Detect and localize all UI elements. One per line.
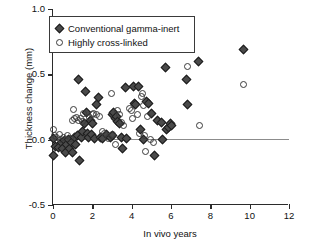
x-axis-tick-label: 4 [122, 210, 142, 221]
data-point [160, 63, 170, 73]
x-axis-tick: 10 [250, 204, 251, 209]
x-axis-tick-label: 6 [161, 210, 181, 221]
x-axis-tick-label: 0 [43, 210, 63, 221]
data-point [194, 56, 204, 66]
data-point [144, 113, 151, 120]
data-point [150, 139, 157, 146]
data-point [120, 122, 127, 129]
data-point [79, 118, 86, 125]
data-point [182, 75, 192, 85]
legend-item-highly-cross-linked: Highly cross-linked [56, 35, 194, 49]
data-point [75, 156, 85, 166]
x-axis-tick-label: 10 [240, 210, 260, 221]
data-point [134, 111, 141, 118]
data-point [108, 90, 115, 97]
data-point [183, 99, 193, 109]
x-axis-tick: 6 [171, 204, 172, 209]
filled-diamond-icon [55, 23, 65, 33]
data-point [240, 81, 247, 88]
y-axis-tick-label: 0.5 [32, 68, 45, 79]
y-axis-tick-label: 1.0 [32, 3, 45, 14]
y-axis-tick: 1.0 [48, 9, 53, 10]
data-point [116, 111, 123, 118]
legend-label: Highly cross-linked [68, 37, 148, 48]
y-axis-tick: 0.5 [48, 74, 53, 75]
data-point [118, 144, 128, 154]
data-point [184, 63, 191, 70]
x-axis-tick-label: 8 [200, 210, 220, 221]
x-axis-tick: 8 [210, 204, 211, 209]
data-point [96, 113, 103, 120]
data-point [80, 86, 90, 96]
data-point [157, 135, 167, 145]
data-point [142, 148, 149, 155]
x-axis-title: In vivo years [52, 228, 288, 239]
data-point [149, 150, 159, 160]
data-point [196, 122, 203, 129]
data-point [70, 106, 77, 113]
x-axis-tick: 0 [53, 204, 54, 209]
data-point [122, 133, 132, 143]
chart-legend: Conventional gamma-inert Highly cross-li… [49, 16, 195, 53]
x-axis-tick: 4 [132, 204, 133, 209]
x-axis-tick: 12 [289, 204, 290, 209]
data-point [74, 75, 84, 85]
y-axis-tick-label: 0.0 [32, 134, 45, 145]
scatter-chart: Thickness change (mm) -0.50.00.51.0 0246… [0, 0, 327, 247]
legend-item-conventional-gamma-inert: Conventional gamma-inert [56, 21, 194, 35]
y-axis-title: Thickness change (mm) [23, 19, 34, 179]
x-axis-tick-label: 2 [82, 210, 102, 221]
open-circle-icon [56, 39, 63, 46]
data-point [239, 45, 249, 55]
data-point [67, 135, 74, 142]
legend-label: Conventional gamma-inert [68, 23, 179, 34]
data-point [140, 102, 147, 109]
y-axis-tick-label: -0.5 [29, 199, 45, 210]
x-axis-tick-label: 12 [279, 210, 299, 221]
data-point [68, 148, 78, 158]
x-axis-tick: 2 [92, 204, 93, 209]
